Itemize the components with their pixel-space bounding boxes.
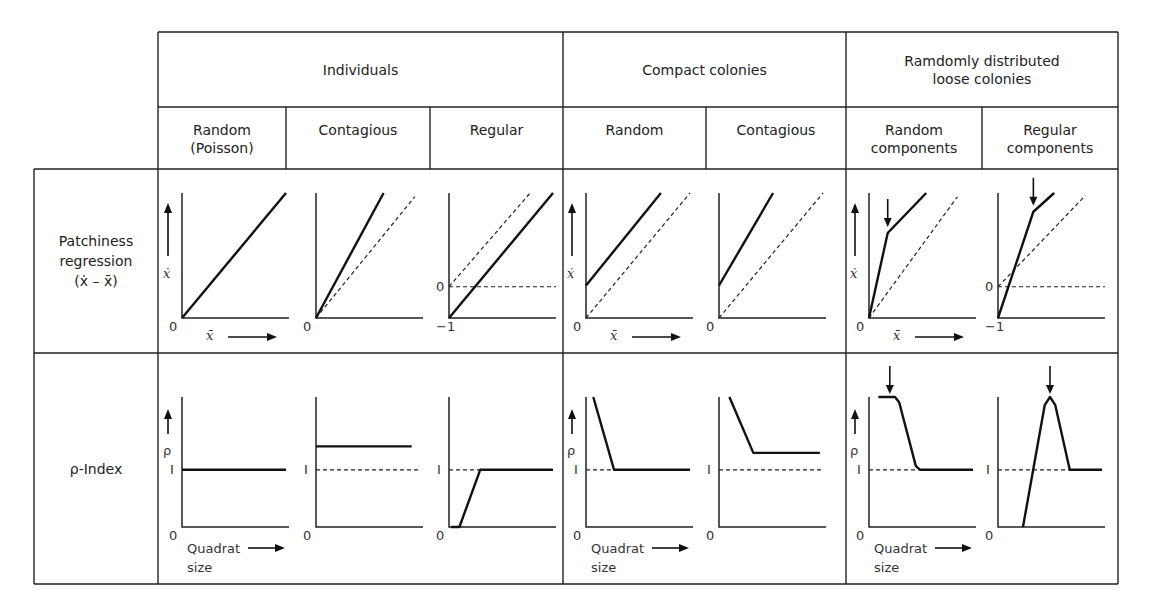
plot-axes [869,397,976,527]
group-header-individuals: Individuals [158,32,563,107]
up-arrow-head-icon [851,203,859,213]
plot-axes [449,397,556,527]
origin-label: −1 [985,319,1004,334]
origin-label: 0 [856,528,864,543]
origin-label: 0 [573,528,581,543]
y-axis-label-rho: ρ [163,443,171,458]
unity-level-label: I [707,462,711,477]
plot-axes [998,193,1105,318]
reference-line-dashed [998,196,1085,287]
data-line [182,193,286,318]
plot-axes [869,193,976,318]
origin-label: 0 [985,528,993,543]
y-axis-label-xdot: ẋ [850,266,857,281]
plot-axes [316,397,423,527]
origin-label: 0 [573,319,581,334]
up-arrow-head-icon [568,203,576,213]
origin-label: 0 [303,528,311,543]
down-arrow-head-icon [884,218,892,227]
right-arrow-head-icon [267,333,277,341]
data-line [449,193,553,318]
patchiness-table: Individuals Compact colonies Ramdomly di… [0,0,1151,611]
up-arrow-head-icon [568,409,576,419]
data-line [998,193,1054,318]
origin-label: 0 [169,528,177,543]
data-line [1023,397,1102,527]
right-arrow-head-icon [275,544,285,552]
right-arrow-head-icon [954,333,964,341]
y-axis-label-rho: ρ [850,443,858,458]
reference-line-dashed [316,197,415,318]
origin-label: 0 [856,319,864,334]
right-arrow-head-icon [671,333,681,341]
down-arrow-head-icon [1046,385,1054,394]
origin-label: 0 [706,319,714,334]
x-axis-label-quadrat: Quadrat [187,541,240,556]
down-arrow-head-icon [1029,197,1037,206]
origin-label: 0 [706,528,714,543]
x-axis-label-xbar: x̄ [206,328,213,343]
column-header-random-components: Random components [846,107,982,169]
data-line [316,193,384,318]
data-line [878,397,973,470]
data-line [451,470,553,527]
origin-label: 0 [436,528,444,543]
x-axis-label-size: size [591,560,616,575]
data-line [593,397,690,470]
column-header-random-poisson: Random (Poisson) [158,107,286,169]
unity-level-label: I [437,462,441,477]
origin-label: −1 [436,319,455,334]
unity-level-label: I [574,462,578,477]
up-arrow-head-icon [164,203,172,213]
data-line [729,397,819,453]
reference-line-dashed [719,193,823,318]
column-header-contagious: Contagious [286,107,430,169]
column-header-regular-components: Regular components [982,107,1118,169]
unity-level-label: I [304,462,308,477]
plot-axes [182,397,289,527]
right-arrow-head-icon [962,544,972,552]
column-header-compact-random: Random [563,107,706,169]
x-axis-label-size: size [187,560,212,575]
x-axis-label-quadrat: Quadrat [591,541,644,556]
column-header-regular: Regular [430,107,563,169]
zero-level-label: 0 [436,279,444,294]
group-header-compact-colonies: Compact colonies [563,32,846,107]
down-arrow-head-icon [886,385,894,394]
data-line [719,193,773,286]
y-axis-label-rho: ρ [567,443,575,458]
up-arrow-head-icon [164,409,172,419]
up-arrow-head-icon [851,409,859,419]
zero-level-label: 0 [985,279,993,294]
x-axis-label-xbar: x̄ [893,328,900,343]
plot-axes [586,397,693,527]
reference-line-dashed [449,193,530,287]
data-line [586,193,661,286]
row-header-patchiness-regression: Patchiness regression (ẋ – x̄) [34,169,158,353]
y-axis-label-xdot: ẋ [163,266,170,281]
right-arrow-head-icon [679,544,689,552]
column-header-compact-contagious: Contagious [706,107,846,169]
plot-axes [719,397,826,527]
group-header-loose-colonies: Ramdomly distributed loose colonies [846,32,1118,107]
y-axis-label-xdot: ẋ [567,266,574,281]
origin-label: 0 [169,319,177,334]
x-axis-label-xbar: x̄ [610,328,617,343]
origin-label: 0 [303,319,311,334]
unity-level-label: I [986,462,990,477]
x-axis-label-quadrat: Quadrat [874,541,927,556]
unity-level-label: I [857,462,861,477]
data-line [869,193,926,318]
row-header-rho-index: ρ-Index [34,353,158,584]
x-axis-label-size: size [874,560,899,575]
reference-line-dashed [586,193,690,318]
plot-axes [998,397,1105,527]
unity-level-label: I [170,462,174,477]
